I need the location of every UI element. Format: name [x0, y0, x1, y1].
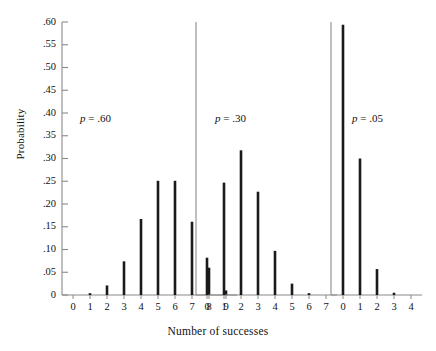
x-tick-label: 4: [404, 301, 418, 312]
y-tick-label: .10: [26, 244, 56, 254]
x-tick-label: 1: [83, 301, 97, 312]
y-tick-label: 0: [26, 290, 56, 300]
x-tick-label: 3: [251, 301, 265, 312]
x-tick-label: 4: [268, 301, 282, 312]
annotation-value: .60: [97, 112, 111, 124]
y-tick-label: .30: [26, 153, 56, 163]
x-tick-label: 2: [234, 301, 248, 312]
x-tick-label: 3: [117, 301, 131, 312]
plot-canvas: [0, 0, 436, 351]
x-tick-label: 5: [151, 301, 165, 312]
annotation-value: .30: [232, 112, 246, 124]
y-tick-label: .60: [26, 17, 56, 27]
x-tick-label: 0: [66, 301, 80, 312]
panel-probability-annotation: p = .05: [352, 112, 383, 124]
x-tick-label: 5: [285, 301, 299, 312]
x-tick-label: 0: [336, 301, 350, 312]
y-tick-label: .20: [26, 199, 56, 209]
annotation-equals: =: [223, 112, 229, 124]
y-tick-label: .35: [26, 130, 56, 140]
x-tick-label: 1: [353, 301, 367, 312]
x-tick-label: 2: [370, 301, 384, 312]
y-tick-label: .50: [26, 62, 56, 72]
y-tick-label: .45: [26, 85, 56, 95]
panel-probability-annotation: p = .60: [80, 112, 111, 124]
x-tick-label: 6: [302, 301, 316, 312]
annotation-equals: =: [360, 112, 366, 124]
x-tick-label: 6: [168, 301, 182, 312]
x-tick-label: 0: [200, 301, 214, 312]
binomial-distributions-figure: Probability Number of successes .60.55.5…: [0, 0, 436, 351]
annotation-equals: =: [88, 112, 94, 124]
y-tick-label: .40: [26, 108, 56, 118]
x-tick-label: 1: [217, 301, 231, 312]
annotation-value: .05: [369, 112, 383, 124]
annotation-symbol: p: [352, 112, 358, 124]
x-tick-label: 7: [185, 301, 199, 312]
y-tick-label: .55: [26, 39, 56, 49]
annotation-symbol: p: [215, 112, 221, 124]
y-tick-label: .25: [26, 176, 56, 186]
x-tick-label: 4: [134, 301, 148, 312]
x-tick-label: 2: [100, 301, 114, 312]
x-tick-label: 7: [319, 301, 333, 312]
panel-probability-annotation: p = .30: [215, 112, 246, 124]
y-tick-label: .15: [26, 221, 56, 231]
y-tick-label: .05: [26, 267, 56, 277]
x-tick-label: 3: [387, 301, 401, 312]
annotation-symbol: p: [80, 112, 86, 124]
